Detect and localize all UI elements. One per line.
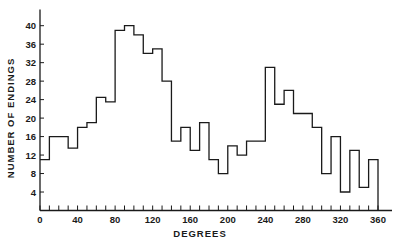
y-tick-label: 8 xyxy=(31,168,36,179)
y-axis: 481216202428323640 xyxy=(25,10,44,211)
y-tick-label: 24 xyxy=(25,94,36,105)
y-tick-label: 40 xyxy=(25,20,36,31)
x-tick-label: 120 xyxy=(145,214,161,225)
x-axis: 04080120160200240280320360 xyxy=(37,206,392,225)
x-tick-label: 40 xyxy=(72,214,83,225)
x-tick-label: 80 xyxy=(110,214,121,225)
y-tick-label: 16 xyxy=(25,131,36,142)
x-tick-label: 320 xyxy=(333,214,349,225)
y-tick-label: 36 xyxy=(25,39,36,50)
y-tick-label: 32 xyxy=(25,57,36,68)
x-tick-label: 360 xyxy=(370,214,386,225)
histogram-chart: 481216202428323640 040801201602002402803… xyxy=(0,0,398,243)
y-tick-label: 20 xyxy=(25,113,36,124)
histogram-step-line xyxy=(40,26,378,211)
y-tick-label: 12 xyxy=(25,150,36,161)
y-axis-title: NUMBER OF ENDINGS xyxy=(5,58,16,178)
x-tick-label: 280 xyxy=(295,214,311,225)
y-tick-label: 28 xyxy=(25,76,36,87)
x-tick-label: 200 xyxy=(220,214,236,225)
y-tick-label: 4 xyxy=(31,187,37,198)
x-tick-label: 160 xyxy=(182,214,198,225)
x-axis-title: DEGREES xyxy=(173,228,226,239)
x-tick-label: 0 xyxy=(37,214,42,225)
x-tick-label: 240 xyxy=(257,214,273,225)
